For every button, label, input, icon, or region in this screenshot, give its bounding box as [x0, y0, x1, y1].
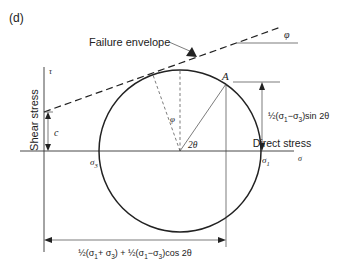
normal-formula: ½(σ1+ σ3) + ½(σ1−σ3)cos 2θ	[78, 248, 192, 260]
angle-phi-label: φ	[170, 114, 175, 124]
shear-formula: ½(σ1−σ3)sin 2θ	[268, 111, 329, 123]
panel-label: (d)	[9, 11, 24, 25]
y-axis-label: Shear stress	[28, 89, 40, 151]
point-A-label: A	[221, 70, 229, 82]
mohr-circle-diagram: (d) τ Shear stress Direct stress σ φ Fai…	[0, 0, 354, 271]
failure-envelope-arrowhead	[186, 47, 197, 57]
sigma1-label: σ1	[262, 155, 270, 167]
radius-to-A	[180, 84, 226, 151]
tangent-radius	[153, 75, 180, 151]
failure-envelope-leader	[169, 42, 192, 52]
phi-label: φ	[284, 29, 290, 40]
y-axis-symbol: τ	[49, 67, 53, 76]
failure-envelope-label: Failure envelope	[89, 36, 170, 48]
cohesion-label: c	[54, 127, 59, 138]
sigma3-label: σ3	[90, 157, 98, 169]
angle-2theta-label: 2θ	[188, 140, 198, 150]
x-axis-symbol: σ	[298, 154, 303, 163]
